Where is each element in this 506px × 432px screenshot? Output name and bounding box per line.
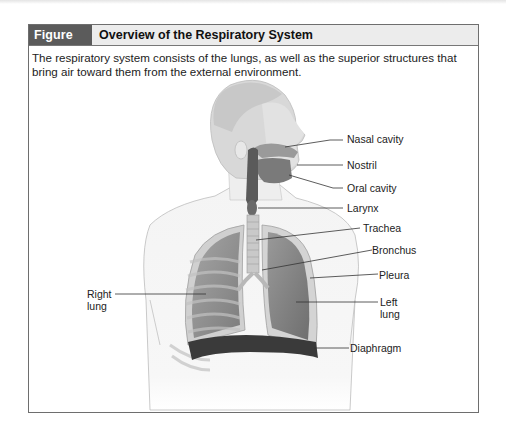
larynx-shape bbox=[247, 200, 257, 216]
label-diaphragm: Diaphragm bbox=[350, 342, 401, 354]
label-nasal-cavity: Nasal cavity bbox=[347, 133, 404, 145]
label-pleura: Pleura bbox=[379, 269, 409, 281]
label-left-lung-line1: Left bbox=[380, 296, 400, 308]
label-larynx: Larynx bbox=[347, 202, 379, 214]
label-nostril: Nostril bbox=[347, 159, 377, 171]
label-right-lung-line1: Right bbox=[87, 288, 112, 300]
oral-cavity-shape bbox=[256, 158, 292, 183]
label-left-lung-line2: lung bbox=[380, 308, 400, 320]
label-trachea: Trachea bbox=[363, 222, 401, 234]
label-oral-cavity: Oral cavity bbox=[347, 182, 397, 194]
label-right-lung-line2: lung bbox=[87, 300, 112, 312]
label-bronchus: Bronchus bbox=[372, 244, 416, 256]
label-left-lung: Left lung bbox=[380, 296, 400, 320]
respiratory-system-illustration bbox=[0, 0, 506, 432]
label-right-lung: Right lung bbox=[87, 288, 112, 312]
